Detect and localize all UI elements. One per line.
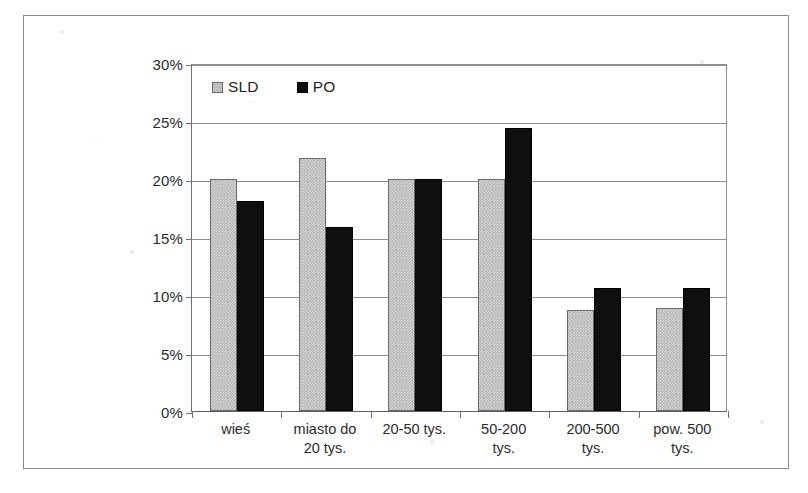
legend-label-po: PO: [313, 78, 336, 96]
x-axis-tick-mark: [639, 411, 640, 418]
scan-speck: [700, 60, 704, 64]
bar-po-6: [683, 288, 710, 411]
chart-frame: 0%5%10%15%20%25%30% SLD PO wieśmiasto do…: [23, 15, 789, 469]
scan-speck: [760, 420, 764, 424]
scan-speck: [60, 30, 64, 34]
bar-po-1: [237, 201, 264, 411]
gridline: [192, 181, 726, 182]
gridline: [192, 355, 726, 356]
scan-speck: [250, 100, 252, 102]
x-axis-end-tick-mark: [728, 411, 729, 418]
x-axis-tick-mark: [281, 411, 282, 418]
gridline: [192, 65, 726, 66]
y-axis-tick-mark: [186, 297, 192, 298]
plot-area: [191, 64, 727, 412]
gridline: [192, 123, 726, 124]
x-axis-labels: wieśmiasto do20 tys.20-50 tys.50-200tys.…: [191, 420, 727, 476]
bar-sld-5: [567, 310, 594, 411]
x-axis-tick-label-line: tys.: [618, 439, 747, 458]
bar-sld-1: [210, 179, 237, 411]
scan-speck: [430, 440, 434, 444]
x-axis-tick-mark: [549, 411, 550, 418]
y-axis-tick-mark: [186, 65, 192, 66]
bar-sld-6: [656, 308, 683, 411]
bar-po-4: [505, 128, 532, 411]
gridline: [192, 297, 726, 298]
bar-sld-3: [388, 179, 415, 411]
y-axis-labels: 0%5%10%15%20%25%30%: [127, 64, 183, 412]
scan-speck: [130, 250, 134, 254]
y-axis-tick-label: 10%: [131, 289, 183, 304]
y-axis-tick-label: 5%: [131, 347, 183, 362]
legend-swatch-po-icon: [297, 82, 308, 93]
x-axis-tick-label-line: pow. 500: [618, 420, 747, 439]
y-axis-tick-mark: [186, 239, 192, 240]
y-axis-tick-label: 30%: [131, 57, 183, 72]
x-axis-end-tick-mark: [192, 411, 193, 418]
chart-legend: SLD PO: [212, 78, 336, 96]
y-axis-tick-mark: [186, 355, 192, 356]
x-axis-tick-label-line: 20 tys.: [261, 439, 390, 458]
scan-speck: [95, 140, 97, 142]
chart-page: 0%5%10%15%20%25%30% SLD PO wieśmiasto do…: [0, 0, 808, 493]
y-axis-tick-label: 15%: [131, 231, 183, 246]
y-axis-tick-mark: [186, 123, 192, 124]
bar-po-5: [594, 288, 621, 411]
bar-sld-4: [478, 179, 505, 411]
gridline: [192, 239, 726, 240]
x-axis-tick-mark: [460, 411, 461, 418]
bar-po-3: [415, 179, 442, 411]
bar-po-2: [326, 227, 353, 411]
legend-swatch-sld-icon: [212, 82, 223, 93]
y-axis-tick-label: 20%: [131, 173, 183, 188]
legend-label-sld: SLD: [228, 78, 259, 96]
y-axis-tick-label: 0%: [131, 405, 183, 420]
bar-sld-2: [299, 158, 326, 411]
x-axis-tick-mark: [371, 411, 372, 418]
legend-item-sld: SLD: [212, 78, 259, 96]
legend-item-po: PO: [297, 78, 336, 96]
y-axis-tick-label: 25%: [131, 115, 183, 130]
x-axis-tick-label: pow. 500tys.: [618, 420, 747, 458]
y-axis-tick-mark: [186, 181, 192, 182]
